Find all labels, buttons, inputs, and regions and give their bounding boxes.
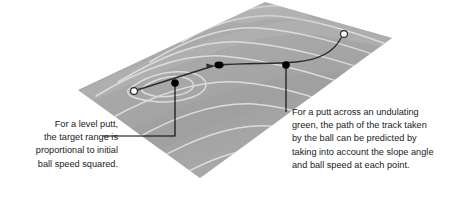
level-putt-annotation: For a level putt, the target range is pr… — [6, 118, 118, 171]
hole-marker — [341, 31, 348, 38]
undulating-start-marker — [214, 62, 223, 69]
undulating-putt-annotation: For a putt across an undulating green, t… — [292, 106, 448, 172]
ball-start-marker — [131, 88, 138, 95]
level-putt-marker — [171, 79, 179, 87]
putting-green-figure: For a level putt, the target range is pr… — [0, 0, 452, 198]
undulating-putt-marker — [282, 61, 290, 69]
